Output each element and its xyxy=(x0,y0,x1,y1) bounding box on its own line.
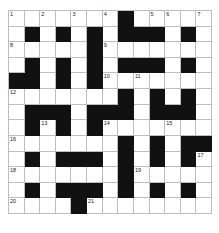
grid-cell[interactable] xyxy=(71,105,87,121)
grid-cell[interactable]: 3 xyxy=(71,11,87,27)
grid-cell[interactable] xyxy=(181,73,197,89)
grid-cell[interactable] xyxy=(40,89,56,105)
grid-cell[interactable] xyxy=(181,120,197,136)
grid-cell[interactable] xyxy=(9,120,25,136)
grid-cell[interactable] xyxy=(181,167,197,183)
grid-cell[interactable] xyxy=(165,152,181,168)
grid-cell[interactable] xyxy=(40,198,56,214)
grid-cell[interactable] xyxy=(40,58,56,74)
grid-cell[interactable] xyxy=(134,152,150,168)
grid-cell[interactable]: 15 xyxy=(165,120,181,136)
grid-cell[interactable] xyxy=(71,58,87,74)
grid-cell[interactable]: 14 xyxy=(103,120,119,136)
grid-cell[interactable] xyxy=(196,120,212,136)
grid-cell[interactable] xyxy=(40,73,56,89)
grid-cell[interactable] xyxy=(71,89,87,105)
grid-cell[interactable] xyxy=(40,136,56,152)
grid-cell[interactable] xyxy=(165,42,181,58)
grid-cell[interactable]: 1 xyxy=(9,11,25,27)
grid-cell[interactable] xyxy=(25,11,41,27)
grid-cell[interactable] xyxy=(181,198,197,214)
grid-cell[interactable]: 20 xyxy=(9,198,25,214)
grid-cell[interactable] xyxy=(71,120,87,136)
grid-cell[interactable] xyxy=(25,167,41,183)
grid-cell[interactable] xyxy=(9,152,25,168)
grid-cell[interactable] xyxy=(165,58,181,74)
grid-cell[interactable] xyxy=(103,183,119,199)
grid-cell[interactable] xyxy=(40,183,56,199)
grid-cell[interactable] xyxy=(56,11,72,27)
grid-cell[interactable] xyxy=(196,42,212,58)
grid-cell[interactable] xyxy=(150,198,166,214)
grid-cell[interactable] xyxy=(103,152,119,168)
grid-cell[interactable] xyxy=(134,183,150,199)
grid-cell[interactable] xyxy=(40,42,56,58)
grid-cell[interactable] xyxy=(196,198,212,214)
grid-cell[interactable] xyxy=(87,167,103,183)
grid-cell[interactable] xyxy=(196,58,212,74)
grid-cell[interactable] xyxy=(196,89,212,105)
grid-cell[interactable] xyxy=(25,198,41,214)
grid-cell[interactable] xyxy=(103,27,119,43)
grid-cell[interactable] xyxy=(165,183,181,199)
grid-cell[interactable]: 21 xyxy=(87,198,103,214)
grid-cell[interactable]: 16 xyxy=(9,136,25,152)
grid-cell[interactable] xyxy=(87,89,103,105)
grid-cell[interactable] xyxy=(118,198,134,214)
grid-cell[interactable] xyxy=(56,89,72,105)
grid-cell[interactable] xyxy=(56,136,72,152)
grid-cell[interactable] xyxy=(134,11,150,27)
grid-cell[interactable] xyxy=(40,152,56,168)
grid-cell[interactable] xyxy=(134,89,150,105)
grid-cell[interactable] xyxy=(134,105,150,121)
grid-cell[interactable] xyxy=(150,167,166,183)
grid-cell[interactable] xyxy=(40,167,56,183)
grid-cell[interactable] xyxy=(165,27,181,43)
grid-cell[interactable]: 18 xyxy=(9,167,25,183)
grid-cell[interactable] xyxy=(118,73,134,89)
grid-cell[interactable] xyxy=(71,73,87,89)
grid-cell[interactable] xyxy=(165,89,181,105)
grid-cell[interactable] xyxy=(71,167,87,183)
grid-cell[interactable]: 9 xyxy=(103,42,119,58)
grid-cell[interactable] xyxy=(196,183,212,199)
grid-cell[interactable] xyxy=(196,27,212,43)
grid-cell[interactable] xyxy=(150,42,166,58)
grid-cell[interactable] xyxy=(87,136,103,152)
grid-cell[interactable] xyxy=(165,136,181,152)
grid-cell[interactable] xyxy=(165,73,181,89)
grid-cell[interactable]: 4 xyxy=(103,11,119,27)
grid-cell[interactable] xyxy=(196,167,212,183)
grid-cell[interactable] xyxy=(150,120,166,136)
grid-cell[interactable] xyxy=(40,27,56,43)
grid-cell[interactable] xyxy=(103,198,119,214)
grid-cell[interactable]: 6 xyxy=(165,11,181,27)
grid-cell[interactable] xyxy=(103,167,119,183)
grid-cell[interactable] xyxy=(165,198,181,214)
grid-cell[interactable] xyxy=(134,42,150,58)
grid-cell[interactable] xyxy=(9,183,25,199)
grid-cell[interactable] xyxy=(181,11,197,27)
grid-cell[interactable] xyxy=(103,136,119,152)
grid-cell[interactable] xyxy=(56,167,72,183)
grid-cell[interactable] xyxy=(25,89,41,105)
grid-cell[interactable] xyxy=(71,136,87,152)
grid-cell[interactable] xyxy=(9,58,25,74)
grid-cell[interactable] xyxy=(9,27,25,43)
grid-cell[interactable] xyxy=(56,42,72,58)
grid-cell[interactable]: 17 xyxy=(196,152,212,168)
grid-cell[interactable] xyxy=(103,58,119,74)
grid-cell[interactable] xyxy=(9,105,25,121)
grid-cell[interactable]: 5 xyxy=(150,11,166,27)
grid-cell[interactable]: 11 xyxy=(134,73,150,89)
grid-cell[interactable] xyxy=(25,136,41,152)
grid-cell[interactable] xyxy=(71,27,87,43)
grid-cell[interactable]: 7 xyxy=(196,11,212,27)
grid-cell[interactable] xyxy=(196,105,212,121)
grid-cell[interactable]: 12 xyxy=(9,89,25,105)
grid-cell[interactable] xyxy=(118,42,134,58)
grid-cell[interactable]: 19 xyxy=(134,167,150,183)
grid-cell[interactable]: 2 xyxy=(40,11,56,27)
grid-cell[interactable] xyxy=(134,120,150,136)
grid-cell[interactable] xyxy=(181,42,197,58)
